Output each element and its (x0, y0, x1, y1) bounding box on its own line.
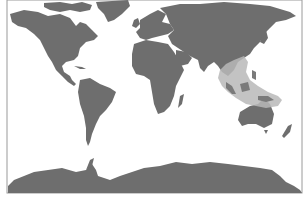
world-map (0, 0, 307, 203)
